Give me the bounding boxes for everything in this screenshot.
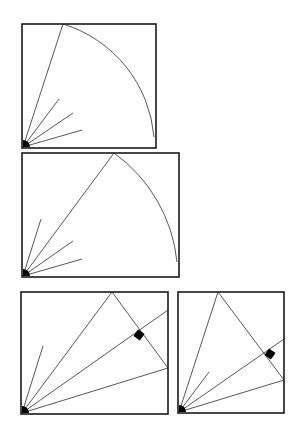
short-ray — [23, 113, 73, 147]
long-ray — [179, 380, 284, 412]
long-ray — [23, 24, 63, 147]
panel-1 — [22, 24, 156, 148]
corner-angle-icon — [22, 406, 29, 413]
diagram-canvas — [0, 0, 304, 438]
corner-angle-icon — [23, 269, 30, 276]
corner-angle-icon — [23, 140, 30, 147]
short-ray — [23, 259, 82, 276]
long-ray — [22, 368, 168, 413]
short-ray — [23, 241, 73, 276]
long-ray — [179, 292, 218, 412]
short-ray — [23, 219, 41, 276]
panel-2 — [22, 153, 179, 277]
short-ray — [22, 346, 43, 413]
panel-3 — [21, 292, 168, 414]
short-ray — [23, 99, 59, 147]
triangle-side — [218, 292, 284, 380]
right-angle-marker — [264, 348, 275, 359]
diagram-panels — [21, 24, 284, 414]
short-ray — [23, 130, 82, 147]
long-ray — [23, 153, 114, 276]
short-ray — [179, 372, 209, 412]
panel-4 — [178, 292, 284, 413]
circular-arc — [63, 24, 154, 137]
panel-frame — [22, 24, 156, 148]
triangle-side — [112, 292, 168, 368]
right-angle-marker — [133, 329, 144, 340]
long-ray — [22, 292, 112, 413]
long-ray — [22, 310, 168, 413]
circular-arc — [114, 153, 177, 262]
panel-frame — [21, 292, 168, 414]
corner-angle-icon — [179, 405, 186, 412]
